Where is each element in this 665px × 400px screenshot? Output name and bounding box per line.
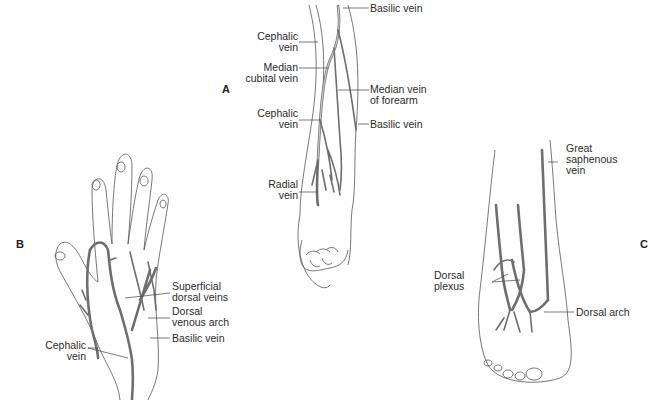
label-dorsal-plexus: Dorsal plexus — [434, 270, 464, 292]
hand-drawing — [55, 154, 168, 400]
foot-drawing — [478, 140, 571, 382]
label-cephalic-vein-upper: Cephalic vein — [246, 31, 298, 53]
label-median-cubital-vein: Median cubital vein — [236, 62, 298, 84]
label-line: cubital vein — [236, 73, 298, 84]
label-great-saphenous-vein: Great saphenous vein — [566, 143, 617, 176]
panel-a-letter: A — [222, 83, 230, 95]
label-cephalic-vein: Cephalic vein — [30, 340, 86, 362]
label-line: of forearm — [370, 95, 427, 106]
label-line: plexus — [434, 281, 464, 292]
label-cephalic-vein-lower: Cephalic vein — [246, 108, 298, 130]
label-basilic-vein-upper: Basilic vein — [370, 3, 423, 14]
panel-c-letter: C — [640, 238, 648, 250]
label-line: vein — [566, 165, 617, 176]
label-line: vein — [246, 190, 298, 201]
label-median-vein-of-forearm: Median vein of forearm — [370, 84, 427, 106]
label-superficial-dorsal-veins: Superficial dorsal veins — [172, 281, 228, 303]
label-basilic-vein: Basilic vein — [172, 333, 225, 344]
label-dorsal-arch: Dorsal arch — [576, 307, 630, 318]
label-line: dorsal veins — [172, 292, 228, 303]
label-line: vein — [246, 119, 298, 130]
panel-b-letter: B — [16, 238, 24, 250]
label-radial-vein: Radial vein — [246, 179, 298, 201]
forearm-drawing — [298, 5, 358, 288]
label-dorsal-venous-arch: Dorsal venous arch — [172, 306, 229, 328]
label-line: venous arch — [172, 317, 229, 328]
label-line: vein — [30, 351, 86, 362]
anatomy-illustration — [0, 0, 665, 400]
label-basilic-vein-lower: Basilic vein — [370, 119, 423, 130]
label-line: vein — [246, 42, 298, 53]
